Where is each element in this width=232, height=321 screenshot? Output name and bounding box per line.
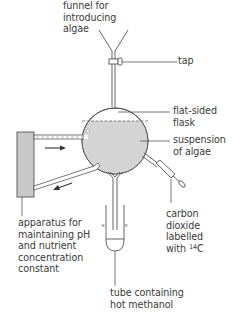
flow-arrow-in — [45, 146, 66, 151]
inflow-tube — [34, 135, 83, 139]
flow-arrow-out — [53, 183, 72, 190]
label-suspension: suspension of algae — [173, 134, 226, 157]
svg-text:×: × — [124, 222, 128, 228]
outflow-tube — [34, 163, 100, 190]
label-tube: tube containing hot methanol — [110, 287, 184, 310]
label-flask: flat-sided flask — [173, 105, 217, 128]
label-co2-element: C — [197, 243, 204, 254]
apparatus-box — [17, 132, 34, 197]
label-funnel: funnel for introducing algae — [63, 0, 116, 35]
co2-syringe-icon — [142, 153, 186, 188]
methanol-test-tube: × × — [101, 205, 128, 251]
svg-text:×: × — [101, 222, 105, 228]
flask-neck — [112, 63, 115, 107]
label-tap: tap — [178, 55, 193, 67]
label-co2-isotope: 14 — [189, 243, 197, 251]
label-apparatus: apparatus for maintaining pH and nutrien… — [18, 217, 90, 275]
tap-icon — [109, 58, 122, 65]
label-co2: carbon dioxide labelled with 14C — [166, 208, 204, 254]
outlet-tube — [108, 172, 122, 230]
